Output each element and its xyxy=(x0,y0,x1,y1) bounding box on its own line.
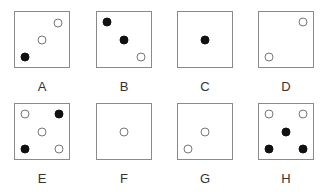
panel-box xyxy=(14,103,70,160)
panel-box xyxy=(96,103,152,160)
panel-d: D xyxy=(258,11,314,68)
empty-circle-icon xyxy=(55,145,64,154)
panel-f: F xyxy=(96,103,152,160)
panel-label: H xyxy=(258,171,314,186)
empty-circle-icon xyxy=(54,19,63,28)
panel-c: C xyxy=(177,11,233,68)
panel-box xyxy=(177,103,233,160)
panel-label: E xyxy=(14,171,70,186)
panel-label: F xyxy=(96,171,152,186)
panel-box xyxy=(96,11,152,68)
filled-circle-icon xyxy=(282,127,291,136)
panel-box xyxy=(258,11,314,68)
filled-circle-icon xyxy=(102,17,111,26)
empty-circle-icon xyxy=(38,35,47,44)
filled-circle-icon xyxy=(55,109,64,118)
filled-circle-icon xyxy=(299,145,308,154)
panel-label: B xyxy=(96,79,152,94)
empty-circle-icon xyxy=(299,17,308,26)
filled-circle-icon xyxy=(201,35,210,44)
panel-box xyxy=(177,11,233,68)
empty-circle-icon xyxy=(20,109,29,118)
empty-circle-icon xyxy=(120,127,129,136)
panel-label: C xyxy=(177,79,233,94)
panel-h: H xyxy=(258,103,314,160)
panel-label: D xyxy=(258,79,314,94)
empty-circle-icon xyxy=(38,127,47,136)
empty-circle-icon xyxy=(264,53,273,62)
panel-a: A xyxy=(14,11,70,68)
empty-circle-icon xyxy=(201,127,210,136)
panel-label: A xyxy=(14,79,70,94)
panel-g: G xyxy=(177,103,233,160)
filled-circle-icon xyxy=(120,35,129,44)
empty-circle-icon xyxy=(299,109,308,118)
filled-circle-icon xyxy=(264,145,273,154)
empty-circle-icon xyxy=(183,145,192,154)
filled-circle-icon xyxy=(20,53,29,62)
empty-circle-icon xyxy=(264,109,273,118)
panel-label: G xyxy=(177,171,233,186)
panel-e: E xyxy=(14,103,70,160)
empty-circle-icon xyxy=(137,53,146,62)
panel-box xyxy=(14,11,70,68)
filled-circle-icon xyxy=(20,145,29,154)
panel-box xyxy=(258,103,314,160)
panel-b: B xyxy=(96,11,152,68)
